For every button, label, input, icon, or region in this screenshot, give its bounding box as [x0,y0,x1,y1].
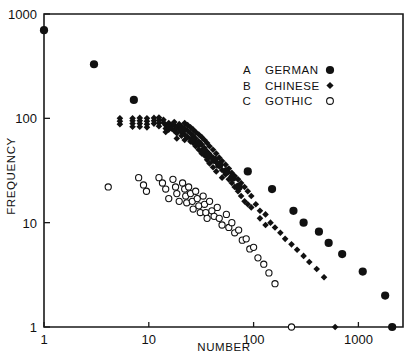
data-point [179,180,185,186]
x-tick-label: 1000 [344,332,373,347]
data-point [289,207,297,215]
data-point [219,222,225,228]
data-point [288,324,294,330]
legend-marker-open-circle [327,98,334,105]
log-log-scatter-chart: 1101001000 1101001000 NUMBER FREQUENCY A… [0,0,412,354]
data-point [200,193,206,199]
data-point [359,267,367,275]
data-point [325,239,333,247]
data-point [338,250,346,258]
data-point [223,211,229,217]
data-point [90,60,98,68]
data-point [261,261,267,267]
data-point [222,167,230,175]
data-point [235,183,243,191]
data-point [388,323,396,331]
legend-label-gothic: GOTHIC [265,95,313,107]
data-point [174,190,180,196]
data-point [204,215,210,221]
data-point [130,96,138,104]
legend-label-german: GERMAN [265,64,318,76]
data-point [163,186,169,192]
data-point [203,209,209,215]
data-point [214,204,220,210]
data-point [143,188,149,194]
y-tick-label: 1000 [8,7,37,22]
data-point [159,180,165,186]
legend-label-chinese: CHINESE [265,80,320,92]
scatter-plot-figure: 1101001000 1101001000 NUMBER FREQUENCY A… [0,0,412,354]
y-axis-title: FREQUENCY [5,137,17,215]
chart-background [0,0,412,354]
data-point [255,255,261,261]
data-point [136,175,142,181]
data-point [244,167,252,175]
data-point [193,188,199,194]
data-point [268,185,276,193]
x-tick-label: 1 [40,332,47,347]
data-point [194,196,200,202]
data-point [236,227,242,233]
legend-key-german: A [243,64,251,76]
data-point [170,176,176,182]
data-point [272,281,278,287]
data-point [228,174,236,182]
legend-marker-filled-circle [326,66,334,74]
x-axis-title: NUMBER [197,341,250,353]
data-point [166,196,172,202]
legend-key-chinese: B [243,80,251,92]
y-tick-label: 10 [23,216,37,231]
data-point [195,140,203,148]
data-point [140,182,146,188]
y-tick-label: 100 [15,111,37,126]
data-point [105,184,111,190]
data-point [229,220,235,226]
data-point [315,228,323,236]
data-point [40,26,48,34]
data-point [176,198,182,204]
data-point [266,270,272,276]
data-point [243,236,249,242]
legend-key-gothic: C [243,95,252,107]
data-point [300,219,308,227]
data-point [172,184,178,190]
data-point [178,125,186,133]
data-point [206,198,212,204]
data-point [215,161,223,169]
x-tick-label: 10 [142,332,156,347]
data-point [251,244,257,250]
data-point [216,215,222,221]
data-point [381,291,389,299]
y-tick-label: 1 [30,320,37,335]
data-point [186,184,192,190]
